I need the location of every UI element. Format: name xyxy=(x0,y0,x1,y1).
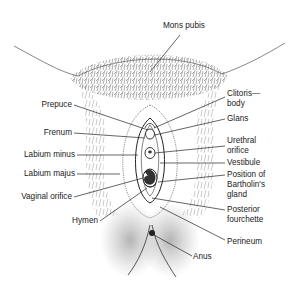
label-frenum: Frenum xyxy=(44,128,72,138)
vaginal-orifice-shape xyxy=(143,169,157,187)
label-perineum: Perineum xyxy=(227,237,262,247)
label-urethral-orifice: Urethral orifice xyxy=(227,136,256,156)
label-anus: Anus xyxy=(193,252,212,262)
label-bartholins-gland: Position of Bartholin's gland xyxy=(227,170,265,200)
label-labium-majus: Labium majus xyxy=(24,169,75,179)
label-vestibule: Vestibule xyxy=(227,158,260,168)
label-prepuce: Prepuce xyxy=(42,100,73,110)
label-hymen: Hymen xyxy=(72,216,98,226)
perineum-shading xyxy=(100,202,200,278)
label-vaginal-orifice: Vaginal orifice xyxy=(21,192,72,202)
label-glans: Glans xyxy=(227,114,248,124)
label-mons-pubis: Mons pubis xyxy=(163,21,205,31)
urethral-orifice-shape xyxy=(145,148,155,159)
label-posterior-fourchette: Posterior fourchette xyxy=(227,205,263,225)
anatomy-diagram: Mons pubis Prepuce Frenum Labium minus L… xyxy=(0,0,303,306)
label-labium-minus: Labium minus xyxy=(24,150,75,160)
label-clitoris-body: Clitoris— body xyxy=(227,89,260,109)
